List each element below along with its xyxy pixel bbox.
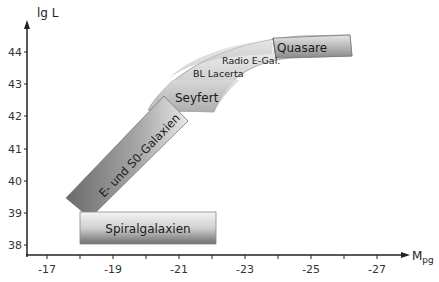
luminosity-magnitude-diagram: lg L 44 43 42 41 40 39 38 — [0, 0, 439, 282]
bl-lacerta-label: BL Lacerta — [193, 68, 243, 79]
quasare-label: Quasare — [277, 41, 327, 55]
x-tick--21: -21 — [170, 263, 188, 276]
y-tick-40: 40 — [8, 175, 22, 188]
x-tick--17: -17 — [38, 263, 56, 276]
spiral-label: Spiralgalaxien — [105, 222, 190, 236]
y-tick-39: 39 — [8, 207, 22, 220]
y-tick-41: 41 — [8, 143, 22, 156]
y-tick-38: 38 — [8, 239, 22, 252]
radio-label: Radio E-Gal. — [222, 55, 280, 66]
y-tick-43: 43 — [8, 78, 22, 91]
y-tick-42: 42 — [8, 110, 22, 123]
x-axis: -17 -19 -21 -23 -25 -27 Mpg — [26, 249, 434, 276]
seyfert-label: Seyfert — [175, 91, 219, 105]
x-tick--23: -23 — [236, 263, 254, 276]
x-axis-title: Mpg — [412, 249, 434, 265]
x-tick--25: -25 — [302, 263, 320, 276]
x-tick--27: -27 — [368, 263, 386, 276]
y-axis-title: lg L — [37, 6, 59, 20]
elliptical-band: E- und S0-Galaxien — [66, 96, 188, 218]
y-axis: lg L 44 43 42 41 40 39 38 — [8, 6, 59, 257]
y-tick-44: 44 — [8, 46, 22, 59]
arrow-right-icon — [401, 252, 410, 258]
arrow-up-icon — [24, 20, 30, 29]
x-tick--19: -19 — [104, 263, 122, 276]
spiral-band: Spiralgalaxien — [80, 212, 216, 244]
